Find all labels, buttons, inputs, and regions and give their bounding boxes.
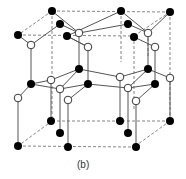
crystal-structure-diagram: (b) [0, 0, 186, 179]
atom-black [144, 65, 152, 73]
atom-black [117, 7, 125, 15]
atom-black [124, 20, 132, 28]
atom-white [75, 29, 83, 37]
atom-black [56, 129, 64, 137]
atom-black [47, 117, 55, 125]
atoms [14, 7, 174, 151]
atom-black [75, 65, 83, 73]
atom-black [116, 117, 124, 125]
atom-white [151, 43, 159, 51]
atom-black [48, 7, 56, 15]
figure-caption: (b) [77, 159, 89, 170]
atom-white [166, 74, 174, 82]
atom-white [27, 41, 35, 49]
atom-white [116, 73, 124, 81]
atom-white [64, 96, 72, 104]
atom-black [84, 80, 92, 88]
atom-black [130, 33, 138, 41]
atom-black [56, 20, 64, 28]
atom-white [132, 97, 140, 105]
atom-black [64, 143, 72, 151]
atom-white [124, 84, 132, 92]
atom-black [124, 129, 132, 137]
atom-white [14, 94, 22, 102]
atom-black [166, 8, 174, 16]
atom-white [56, 85, 64, 93]
atom-black [14, 142, 22, 150]
atom-black [63, 32, 71, 40]
atom-white [84, 43, 92, 51]
atom-black [132, 143, 140, 151]
atom-white [47, 76, 55, 84]
atom-white [144, 29, 152, 37]
atom-black [27, 80, 35, 88]
atom-black [14, 31, 22, 39]
atom-black [151, 80, 159, 88]
atom-black [166, 117, 174, 125]
